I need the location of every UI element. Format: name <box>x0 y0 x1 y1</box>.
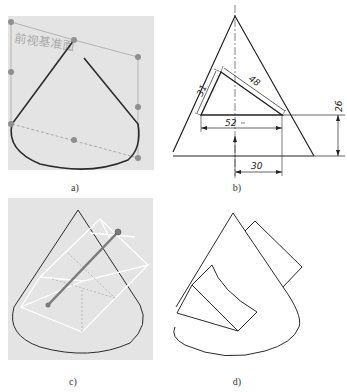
panel-a: 前视基准面 a) <box>0 0 175 195</box>
caption-b: b) <box>222 182 252 193</box>
dim-52: 52 <box>225 118 237 128</box>
dim-31: 31 <box>195 83 209 98</box>
cone-sketch-on-plane: 前视基准面 <box>0 0 175 195</box>
dimensioned-sketch: 26 52 30 31 48 <box>175 0 347 195</box>
dim-26: 26 <box>334 100 344 112</box>
caption-d: d) <box>222 376 252 387</box>
caption-a: a) <box>60 182 90 193</box>
cut-extrude-preview <box>0 195 175 392</box>
result-cone <box>175 195 347 392</box>
panel-c: c) <box>0 195 175 392</box>
caption-c: c) <box>58 376 88 387</box>
dim-30: 30 <box>251 161 263 171</box>
panel-b: 26 52 30 31 48 b) <box>175 0 347 195</box>
panel-d: d) <box>175 195 347 392</box>
